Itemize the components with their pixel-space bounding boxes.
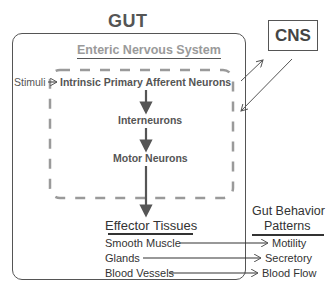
ens-dashed-region: [50, 70, 233, 198]
stimuli-label: Stimuli: [14, 76, 46, 88]
behavior-blood-flow: Blood Flow: [262, 267, 316, 279]
behavior-secretory: Secretory: [265, 252, 312, 264]
diagram-connectors: [0, 0, 334, 295]
gut-behavior-header-underline: [252, 234, 324, 236]
neuron-interneurons: Interneurons: [118, 114, 182, 126]
gut-behavior-header-line1: Gut Behavior: [252, 204, 325, 218]
arrow-cns-to-ens-icon: [241, 59, 292, 111]
arrow-ens-to-cns-icon: [241, 60, 263, 81]
gut-behavior-header-line2: Patterns: [264, 219, 311, 233]
behavior-motility: Motility: [272, 237, 306, 249]
tissue-blood-vessels: Blood Vessels: [105, 267, 174, 279]
effector-header-underline: [108, 233, 193, 235]
neuron-intrinsic-primary-afferent: Intrinsic Primary Afferent Neurons: [60, 76, 231, 88]
tissue-glands: Glands: [105, 252, 140, 264]
tissue-smooth-muscle: Smooth Muscle: [105, 237, 181, 249]
neuron-motor: Motor Neurons: [113, 152, 188, 164]
effector-tissues-header: Effector Tissues: [105, 218, 197, 233]
